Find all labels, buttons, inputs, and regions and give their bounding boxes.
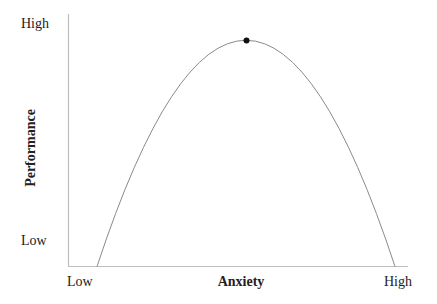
performance-curve	[97, 40, 395, 266]
x-tick-low: Low	[67, 274, 94, 289]
peak-marker-dot	[244, 38, 250, 44]
y-tick-high: High	[21, 16, 49, 31]
x-axis-title: Anxiety	[218, 274, 265, 289]
y-tick-low: Low	[21, 233, 48, 248]
inverted-u-chart: High Low Performance Low High Anxiety	[0, 0, 437, 304]
y-axis-title: Performance	[23, 109, 38, 187]
x-tick-high: High	[384, 274, 412, 289]
